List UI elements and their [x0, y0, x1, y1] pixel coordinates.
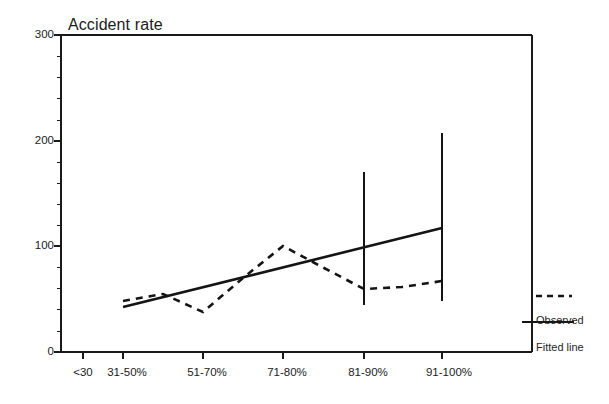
- x-axis-ticks: [83, 352, 442, 359]
- observed-series-line: [123, 246, 442, 312]
- y-tick-label-0: 0: [8, 345, 54, 357]
- legend-label-observed: Observed: [536, 314, 584, 326]
- y-axis-ticks: [54, 35, 61, 352]
- x-tick-label-31-50: 31-50%: [107, 366, 147, 378]
- x-tick-label-91-100: 91-100%: [426, 366, 472, 378]
- x-tick-label-71-80: 71-80%: [267, 366, 307, 378]
- chart-title: Accident rate: [68, 16, 163, 34]
- chart-canvas: [0, 0, 609, 404]
- x-tick-label-lt30: <30: [73, 366, 93, 378]
- y-tick-label-300: 300: [8, 28, 54, 40]
- x-tick-label-81-90: 81-90%: [348, 366, 388, 378]
- error-bars: [364, 133, 442, 305]
- y-tick-label-200: 200: [8, 134, 54, 146]
- y-tick-label-100: 100: [8, 239, 54, 251]
- accident-rate-chart: Accident rate 300 200 100 0 <30 31-50% 5…: [0, 0, 609, 404]
- fitted-series-line: [123, 228, 442, 307]
- x-tick-label-51-70: 51-70%: [187, 366, 227, 378]
- legend-label-fitted: Fitted line: [536, 341, 584, 353]
